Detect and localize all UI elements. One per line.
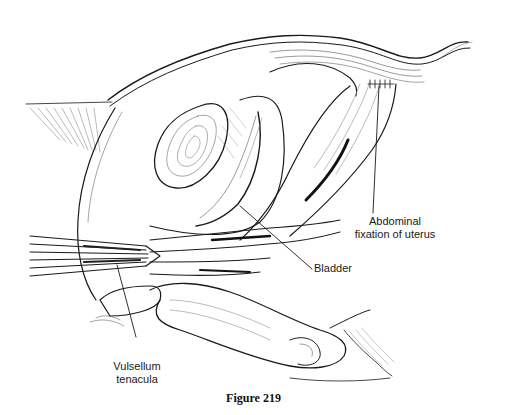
label-abdominal-fixation-line1: Abdominal	[335, 215, 455, 228]
label-vulsellum-tenacula: Vulsellum tenacula	[105, 360, 169, 386]
label-bladder: Bladder	[314, 262, 352, 275]
right-lower-fold	[290, 310, 394, 381]
label-abdominal-fixation: Abdominal fixation of uterus	[335, 215, 455, 241]
leader-abdominal-fixation	[373, 86, 379, 213]
anatomical-figure: Abdominal fixation of uterus Bladder Vul…	[0, 0, 507, 415]
figure-caption: Figure 219	[0, 391, 507, 406]
label-vulsellum-line2: tenacula	[105, 373, 169, 386]
illustration-line-art	[0, 0, 507, 415]
lower-structures	[90, 283, 346, 367]
uterus-body	[240, 63, 396, 240]
vaginal-canal	[150, 220, 340, 275]
vulsellum-tenacula-instrument	[30, 236, 160, 276]
abdominal-wall	[108, 35, 472, 106]
fixation-sutures	[368, 80, 394, 88]
label-abdominal-fixation-line2: fixation of uterus	[335, 228, 455, 241]
leader-vulsellum	[117, 265, 136, 337]
intestinal-loop	[155, 104, 228, 188]
label-vulsellum-line1: Vulsellum	[105, 360, 169, 373]
left-skin-flap	[26, 102, 112, 152]
